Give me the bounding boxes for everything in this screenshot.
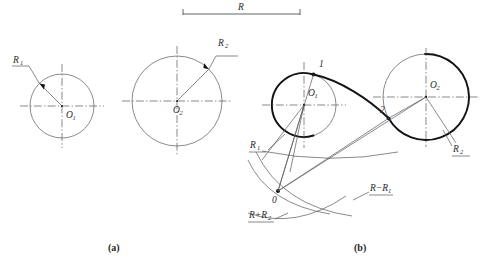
arc-center-point-0-label: 0	[272, 195, 277, 205]
label-r-plus-r2-sub: 2	[268, 214, 272, 221]
tangent-point-1-label: 1	[319, 59, 324, 69]
label-r1-b-sub: 1	[257, 144, 260, 151]
label-o2-b-sub: 2	[437, 84, 441, 91]
label-r2-a: R	[217, 38, 224, 48]
label-r1-a: R	[12, 55, 19, 65]
leader-line-r-minus-r1	[353, 192, 369, 200]
label-group-r-plus-r2: R+R 2	[248, 210, 288, 222]
label-r1-b: R	[249, 140, 256, 150]
leader-line-r-plus-r2	[275, 213, 288, 219]
ray-o2-to-point2	[389, 97, 426, 118]
label-r-plus-r2: R+R	[248, 210, 267, 220]
label-o1-a-sub: 1	[73, 114, 76, 121]
ray-o2-down-right	[426, 97, 456, 143]
figure-canvas: R R 1 O 1	[0, 0, 488, 267]
label-r-minus-r1: R−R	[369, 183, 388, 193]
leader-line-r1	[29, 66, 39, 83]
label-o2-a-sub: 2	[180, 109, 184, 116]
ray-o1-down-left	[262, 105, 304, 160]
tangent-point-2-label: 2	[380, 105, 385, 115]
construction-ray-0-to-point2	[278, 118, 389, 191]
construction-arc-R-minus-R1-b	[256, 152, 352, 216]
panel-a-circle-1: R 1 O 1	[12, 55, 104, 148]
technical-drawing: R R 1 O 1	[0, 0, 488, 267]
radius-arrowhead-r1	[39, 83, 45, 89]
construction-arc-R-minus-R1	[248, 160, 330, 214]
label-r2-a-sub: 2	[225, 42, 229, 49]
leader-line-r1-b	[268, 134, 285, 150]
panel-b: O 1 O 2 1 2 0	[248, 48, 480, 254]
center-dot-o1-a	[61, 105, 63, 107]
panel-a-circle-2: R 2 O 2	[122, 38, 238, 156]
radius-line-r2	[177, 69, 209, 101]
construction-ray-0-to-o2	[278, 97, 426, 191]
caption-b: (b)	[354, 242, 366, 254]
label-r1-a-sub: 1	[20, 59, 23, 66]
dimension-R: R	[183, 2, 300, 15]
label-r2-b: R	[452, 144, 459, 154]
dimension-label-R: R	[237, 2, 244, 12]
caption-a: (a)	[108, 242, 120, 254]
center-dot-o2-a	[176, 100, 178, 102]
radius-arrowhead-r2	[203, 63, 209, 69]
leader-line-r2	[209, 56, 216, 69]
panel-a: R 1 O 1 R 2 O 2 (a)	[12, 38, 238, 254]
label-r2-b-sub: 2	[460, 148, 464, 155]
construction-ray-0-to-o1	[278, 105, 304, 191]
ray-o1-down	[290, 105, 304, 172]
label-o1-b-sub: 1	[315, 92, 318, 99]
label-r-minus-r1-sub: 1	[388, 187, 391, 194]
label-group-r-minus-r1: R−R 1	[353, 183, 393, 200]
